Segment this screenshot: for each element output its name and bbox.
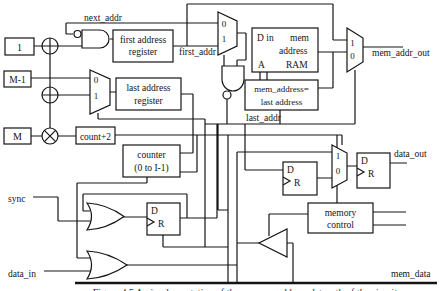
count-plus-2-label: count+2 [80,132,111,142]
mux-input-1-label: 1 [222,34,227,44]
multiplier-symbol [42,128,58,144]
constant-m-label: M [13,131,22,142]
first-address-register-label: first address [120,35,166,45]
comparator-label: mem_address= [254,84,309,94]
counter-range-label: (0 to I-1) [134,163,168,174]
schematic-canvas: 1 M-1 M 0 1 0 1 1 0 1 0 [0,0,441,291]
first-address-register-label2: register [129,47,158,57]
counter-box: counter (0 to I-1) [123,145,180,177]
label-data-in: data_in [8,269,36,279]
mux-mem-addr-out: 1 0 [347,28,363,72]
ram-a-port-label: A [258,60,265,70]
mux-last-addr-src: 0 1 [90,70,110,114]
comparator-box: mem_address= last address [245,80,318,110]
flipflop-r-label: R [158,219,165,229]
mux-input-1-label: 1 [350,38,355,48]
mux-next-addr: 0 1 [218,12,237,55]
flipflop-d-label: D [361,156,368,166]
ram-name-label: RAM [286,60,308,70]
mux-input-0-label: 0 [350,51,355,61]
constant-1-label: 1 [17,42,22,53]
inverter-bubble-icon [74,31,81,38]
label-sync: sync [8,194,25,204]
ram-mem-label: mem [290,33,310,43]
figure-caption: Figure 4.5 An implementation of the memo… [70,287,420,291]
sync-flipflop: D R [147,203,180,235]
memory-control-label: memory [325,208,357,218]
flipflop-d-label: D [287,165,294,175]
constant-m-1-label: M-1 [9,75,26,85]
label-last-addr: last_addr [246,113,282,123]
label-mem-data: mem_data [391,269,431,279]
mux-input-1-label: 1 [94,91,99,101]
ram-address-port-label: address [279,46,308,56]
flipflop-r-label: R [294,178,301,188]
mux-input-0-label: 0 [222,19,227,29]
mux-input-0-label: 0 [336,166,341,176]
last-address-register-label: last address [126,83,170,93]
adder-symbol-2 [42,87,58,103]
flipflop-d-label: D [151,206,158,216]
tristate-buffer [259,229,287,257]
or-gate-2 [87,251,127,279]
and-gate-inverted-input [74,30,109,48]
count-plus-2-box: count+2 [76,127,115,144]
label-data-out: data_out [394,149,427,159]
wire-segment [33,194,237,271]
flipflop-r-label: R [368,169,375,179]
label-next-addr: next_addr [84,13,123,23]
mux-input-1-label: 1 [336,151,341,161]
ram-din-port-label: D in [257,33,274,43]
last-address-register-box: last address register [116,78,181,110]
first-address-register-box: first address register [113,30,173,62]
ram-box: D in mem address A RAM [252,28,318,72]
or-gate-1 [87,203,124,230]
memory-control-box: memory control [308,203,373,233]
schematic-figure: 1 M-1 M 0 1 0 1 1 0 1 0 [0,0,441,291]
inverter-bubble-icon [223,91,231,99]
comparator-label2: last address [261,97,303,107]
last-address-register-label2: register [134,96,163,106]
label-mem-addr-out: mem_addr_out [372,48,430,58]
nand-gate-vertical [222,66,244,99]
mux-data-out: 1 0 [332,145,347,188]
adder-symbol-1 [42,38,58,54]
counter-label: counter [137,150,166,160]
label-first-addr: first_addr [179,47,217,57]
data-flipflop-2: D R [357,153,390,188]
data-flipflop-1: D R [283,162,317,195]
mux-input-0-label: 0 [94,75,99,85]
memory-control-label2: control [327,220,354,230]
